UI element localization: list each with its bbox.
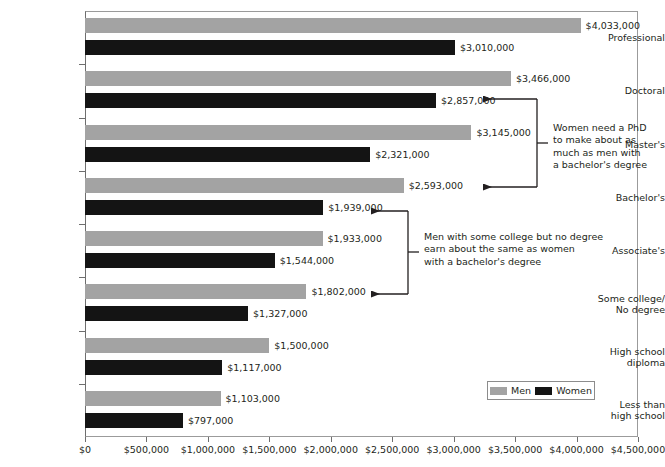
bar-women-2 bbox=[85, 147, 370, 162]
bar-men-6 bbox=[85, 338, 269, 353]
legend-label-women: Women bbox=[556, 385, 592, 396]
x-axis-label: $2,500,000 bbox=[365, 444, 419, 455]
x-axis-label: $4,500,000 bbox=[611, 444, 665, 455]
legend-label-men: Men bbox=[511, 385, 531, 396]
bar-value-label: $1,103,000 bbox=[226, 391, 280, 406]
bar-value-label: $3,466,000 bbox=[516, 71, 570, 86]
bar-men-0 bbox=[85, 18, 581, 33]
bar-women-0 bbox=[85, 40, 455, 55]
bar-value-label: $1,544,000 bbox=[280, 253, 334, 268]
bar-value-label: $1,500,000 bbox=[274, 338, 328, 353]
bar-men-7 bbox=[85, 391, 221, 406]
x-axis-tick bbox=[577, 437, 578, 442]
x-axis-tick bbox=[638, 437, 639, 442]
bar-value-label: $1,117,000 bbox=[227, 360, 281, 375]
bar-women-7 bbox=[85, 413, 183, 428]
x-axis-tick bbox=[146, 437, 147, 442]
x-axis-label: $0 bbox=[79, 444, 91, 455]
x-axis-tick bbox=[269, 437, 270, 442]
category-label: Less thanhigh school bbox=[587, 399, 665, 421]
bar-value-label: $4,033,000 bbox=[586, 18, 640, 33]
legend-item-men: Men bbox=[490, 385, 531, 396]
bar-value-label: $3,145,000 bbox=[476, 125, 530, 140]
x-axis-label: $1,500,000 bbox=[242, 444, 296, 455]
bar-women-5 bbox=[85, 306, 248, 321]
category-label: High schooldiploma bbox=[587, 346, 665, 368]
bar-value-label: $2,321,000 bbox=[375, 147, 429, 162]
bar-value-label: $3,010,000 bbox=[460, 40, 514, 55]
legend-item-women: Women bbox=[535, 385, 592, 396]
y-axis-tick bbox=[79, 64, 86, 65]
x-axis-tick bbox=[85, 437, 86, 442]
x-axis-tick bbox=[331, 437, 332, 442]
category-label: Bachelor's bbox=[587, 192, 665, 203]
x-axis-label: $1,000,000 bbox=[181, 444, 235, 455]
y-axis-tick bbox=[79, 224, 86, 225]
annotation-phd-vs-bachelors: Women need a PhD to make about as much a… bbox=[553, 122, 653, 172]
bar-value-label: $1,327,000 bbox=[253, 306, 307, 321]
bar-value-label: $1,802,000 bbox=[311, 284, 365, 299]
bar-men-2 bbox=[85, 125, 471, 140]
bar-value-label: $1,933,000 bbox=[328, 231, 382, 246]
bar-men-5 bbox=[85, 284, 306, 299]
x-axis-tick bbox=[392, 437, 393, 442]
x-axis-label: $500,000 bbox=[124, 444, 169, 455]
category-label: Professional bbox=[587, 32, 665, 43]
bar-value-label: $2,857,000 bbox=[441, 93, 495, 108]
category-label: Some college/No degree bbox=[587, 293, 665, 315]
y-axis-tick bbox=[79, 277, 86, 278]
bar-men-3 bbox=[85, 178, 404, 193]
x-axis-label: $3,500,000 bbox=[488, 444, 542, 455]
category-label: Doctoral bbox=[587, 85, 665, 96]
y-axis-tick bbox=[79, 118, 86, 119]
bar-women-3 bbox=[85, 200, 323, 215]
bar-value-label: $2,593,000 bbox=[409, 178, 463, 193]
legend-swatch-men-icon bbox=[490, 387, 507, 395]
legend-swatch-women-icon bbox=[535, 387, 552, 395]
y-axis-tick bbox=[79, 384, 86, 385]
bar-women-4 bbox=[85, 253, 275, 268]
bar-value-label: $797,000 bbox=[188, 413, 233, 428]
x-axis-label: $4,000,000 bbox=[549, 444, 603, 455]
x-axis-tick bbox=[515, 437, 516, 442]
legend: Men Women bbox=[487, 381, 595, 400]
x-axis-label: $2,000,000 bbox=[304, 444, 358, 455]
y-axis-tick bbox=[79, 331, 86, 332]
bar-women-1 bbox=[85, 93, 436, 108]
bar-men-4 bbox=[85, 231, 323, 246]
bar-men-1 bbox=[85, 71, 511, 86]
bar-value-label: $1,939,000 bbox=[328, 200, 382, 215]
bar-women-6 bbox=[85, 360, 222, 375]
x-axis-tick bbox=[208, 437, 209, 442]
y-axis-tick bbox=[79, 171, 86, 172]
x-axis-tick bbox=[454, 437, 455, 442]
x-axis-label: $3,000,000 bbox=[426, 444, 480, 455]
earnings-by-education-bar-chart: ProfessionalDoctoralMaster'sBachelor'sAs… bbox=[0, 0, 665, 467]
annotation-some-college-vs-bachelors: Men with some college but no degree earn… bbox=[424, 231, 639, 268]
